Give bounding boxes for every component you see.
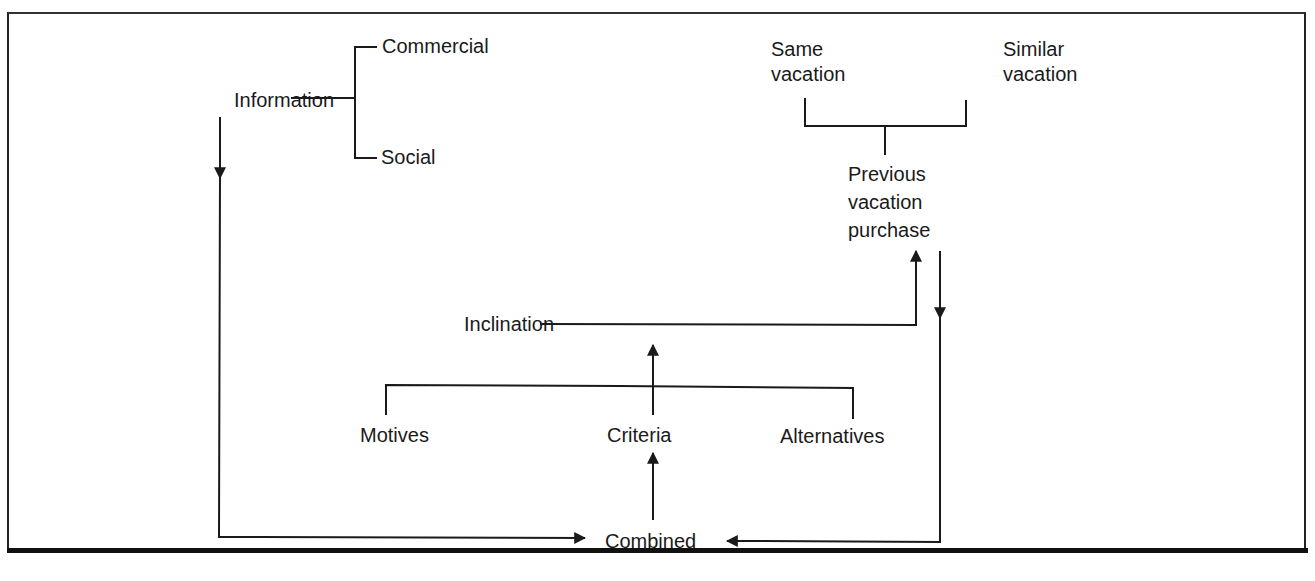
node-previous-line2: vacation (848, 188, 930, 216)
node-same-vacation-line2: vacation (771, 62, 846, 87)
node-same-vacation: Same vacation (771, 37, 846, 87)
node-previous-vacation-purchase: Previous vacation purchase (848, 160, 930, 244)
node-previous-line3: purchase (848, 216, 930, 244)
node-information: Information (234, 88, 334, 113)
node-combined: Combined (605, 529, 696, 554)
node-similar-vacation: Similar vacation (1003, 37, 1078, 87)
node-motives: Motives (360, 423, 429, 448)
info-to-combined-arrow (258, 537, 585, 538)
vacation-bracket (805, 98, 966, 126)
node-similar-vacation-line1: Similar (1003, 37, 1078, 62)
node-commercial: Commercial (382, 34, 489, 59)
node-same-vacation-line1: Same (771, 37, 846, 62)
info-to-combined-path (219, 175, 258, 537)
node-previous-line1: Previous (848, 160, 930, 188)
node-alternatives: Alternatives (780, 424, 885, 449)
info-branch-bracket (355, 47, 377, 158)
node-social: Social (381, 145, 435, 170)
factors-bracket (386, 385, 853, 419)
inclination-to-previous-path (540, 268, 916, 325)
node-inclination: Inclination (464, 312, 554, 337)
diagram-connectors (0, 0, 1315, 581)
node-similar-vacation-line2: vacation (1003, 62, 1078, 87)
node-criteria: Criteria (607, 423, 671, 448)
